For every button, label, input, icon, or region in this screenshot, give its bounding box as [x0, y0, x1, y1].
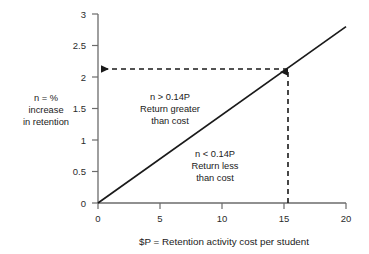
y-tick-label-0-5: 0.5 — [73, 166, 86, 177]
x-tick-label-10: 10 — [217, 213, 228, 224]
x-tick-label-0: 0 — [95, 213, 100, 224]
y-axis-title-line-3: in retention — [23, 117, 69, 127]
chart-figure: 0 0.5 1 1.5 2 2.5 3 0 5 10 15 20 n > 0.1… — [0, 0, 369, 254]
y-axis-title-line-2: increase — [28, 105, 63, 115]
annotation-above-line: n > 0.14P Return greater than cost — [140, 92, 200, 126]
annotation-above-line-1: n > 0.14P — [150, 92, 190, 102]
y-tick-label-3: 3 — [81, 9, 86, 20]
x-tick-label-15: 15 — [279, 213, 290, 224]
annotation-above-line-3: than cost — [151, 116, 189, 126]
y-tick-label-2-5: 2.5 — [73, 40, 86, 51]
annotation-below-line: n < 0.14P Return less than cost — [191, 149, 238, 183]
x-tick-label-20: 20 — [341, 213, 352, 224]
y-axis-ticks — [92, 14, 98, 203]
y-tick-label-1: 1 — [81, 135, 86, 146]
y-axis-title-line-1: n = % — [34, 93, 58, 103]
x-tick-label-5: 5 — [157, 213, 162, 224]
annotation-below-line-3: than cost — [196, 173, 234, 183]
y-axis-title: n = % increase in retention — [23, 93, 69, 127]
annotation-below-line-2: Return less — [191, 161, 238, 171]
y-tick-label-2: 2 — [81, 72, 86, 83]
x-axis-title: $P = Retention activity cost per student — [139, 236, 309, 247]
y-tick-label-0: 0 — [81, 198, 86, 209]
chart-canvas: 0 0.5 1 1.5 2 2.5 3 0 5 10 15 20 n > 0.1… — [0, 0, 369, 254]
annotation-below-line-1: n < 0.14P — [195, 149, 235, 159]
y-tick-label-1-5: 1.5 — [73, 103, 86, 114]
annotation-above-line-2: Return greater — [140, 104, 200, 114]
x-axis-ticks — [98, 203, 346, 209]
